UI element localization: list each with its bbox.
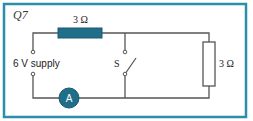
right-resistor-label: 3 Ω [219,58,234,69]
ammeter-label: A [66,93,73,104]
switch-label: S [114,58,120,69]
switch-terminal-top [123,50,127,54]
question-label: Q7 [13,8,29,22]
circuit-diagram: Q7 3 Ω 3 Ω 6 V supply S A [0,0,253,121]
right-resistor [203,42,215,86]
top-resistor [58,28,102,38]
supply-terminal-top [31,50,35,54]
supply-label: 6 V supply [13,58,60,69]
supply-terminal-bottom [31,72,35,76]
circuit-svg: Q7 3 Ω 3 Ω 6 V supply S A [0,0,253,121]
top-resistor-label: 3 Ω [73,14,88,25]
switch-terminal-bottom [123,72,127,76]
